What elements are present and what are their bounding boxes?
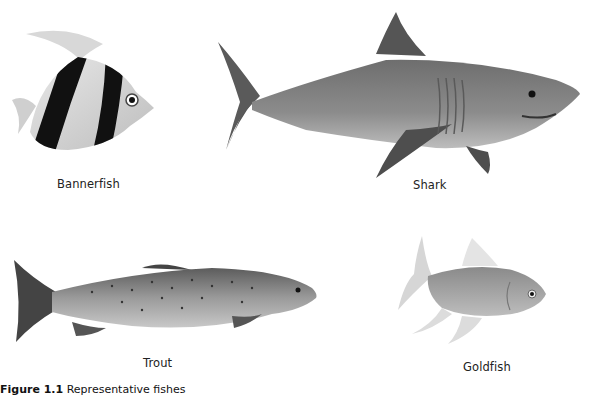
bannerfish-label: Bannerfish [57, 177, 120, 191]
bannerfish-image [8, 22, 158, 157]
figure-number: Figure 1.1 [0, 383, 63, 396]
figure-caption-text: Representative fishes [67, 383, 186, 396]
shark-image [216, 10, 584, 180]
trout-label: Trout [143, 356, 172, 370]
goldfish-image [392, 234, 550, 346]
figure-caption: Figure 1.1 Representative fishes [0, 383, 185, 396]
shark-label: Shark [413, 178, 447, 192]
trout-image [12, 258, 320, 346]
goldfish-label: Goldfish [463, 360, 511, 374]
